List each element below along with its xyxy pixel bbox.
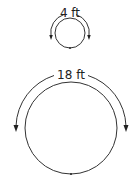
large-circle-label: 18 ft [57,68,85,82]
small-arrowhead-right-icon [87,35,91,40]
small-circle [55,18,85,48]
large-arrowhead-left-icon [14,125,19,132]
diagram-canvas: 4 ft 18 ft [0,0,140,185]
large-arc-right-arrow-icon [88,76,126,127]
large-circle-point [70,173,72,175]
small-arrowhead-left-icon [49,35,53,40]
large-circle-group: 18 ft [14,68,129,175]
large-circle [25,82,117,174]
large-arc-left-arrow-icon [16,76,54,127]
small-circle-point [69,47,71,49]
large-arrowhead-right-icon [124,125,129,132]
small-circle-group: 4 ft [49,6,90,49]
small-circle-label: 4 ft [60,6,80,20]
